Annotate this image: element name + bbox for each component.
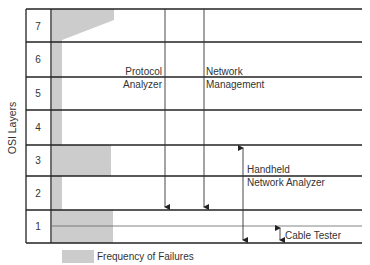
cable-tester-range: Cable Tester xyxy=(280,228,342,241)
layer-5-label: 5 xyxy=(35,88,41,99)
cable-tester-label: Cable Tester xyxy=(285,230,342,241)
layer-1-label: 1 xyxy=(35,221,41,232)
layer-numbers: 7 6 5 4 3 2 1 xyxy=(35,21,41,232)
protocol-analyzer-label-2: Analyzer xyxy=(123,79,163,90)
axis-label: OSI Layers xyxy=(6,102,18,155)
legend: Frequency of Failures xyxy=(62,250,194,263)
network-management-label-1: Network xyxy=(206,66,244,77)
failure-frequency-shading xyxy=(52,9,114,243)
layer-4-label: 4 xyxy=(35,122,41,133)
handheld-label-2: Network Analyzer xyxy=(247,177,325,188)
layer-7-label: 7 xyxy=(35,21,41,32)
protocol-analyzer-range: Protocol Analyzer xyxy=(123,9,165,207)
layer-grid xyxy=(26,9,362,243)
legend-label: Frequency of Failures xyxy=(97,251,194,262)
handheld-label-1: Handheld xyxy=(247,164,290,175)
network-management-label-2: Management xyxy=(206,79,265,90)
layer-2-label: 2 xyxy=(35,188,41,199)
protocol-analyzer-label-1: Protocol xyxy=(125,66,162,77)
osi-troubleshooting-diagram: 7 6 5 4 3 2 1 OSI Layers Protocol Analyz… xyxy=(0,0,370,265)
legend-swatch xyxy=(62,250,94,263)
layer-6-label: 6 xyxy=(35,54,41,65)
layer-3-label: 3 xyxy=(35,155,41,166)
